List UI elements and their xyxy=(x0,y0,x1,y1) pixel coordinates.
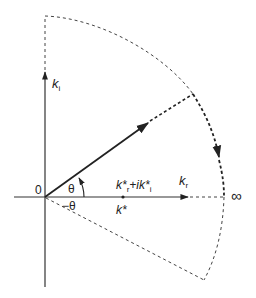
ray-theta-dashed-extension xyxy=(150,94,193,121)
label-origin: 0 xyxy=(35,183,42,197)
label-real-axis: kr xyxy=(179,173,189,190)
outer-arc-upper xyxy=(45,16,193,94)
label-point-real: k* xyxy=(116,203,127,217)
outer-arc-lower xyxy=(204,197,224,280)
label-point-complex: k*r+ik*i xyxy=(116,178,152,194)
label-theta: θ xyxy=(68,182,75,196)
label-minus-theta: −θ xyxy=(62,199,76,213)
contour-arc-continuation xyxy=(219,160,224,197)
label-imaginary-axis: ki xyxy=(52,76,61,93)
angle-arc-theta xyxy=(79,178,84,197)
contour-diagram: ki 0 θ −θ k*r+ik*i k* kr ∞ xyxy=(0,0,256,298)
label-infinity: ∞ xyxy=(231,187,242,204)
point-k-star xyxy=(121,195,124,198)
contour-arc-at-infinity xyxy=(193,94,219,157)
